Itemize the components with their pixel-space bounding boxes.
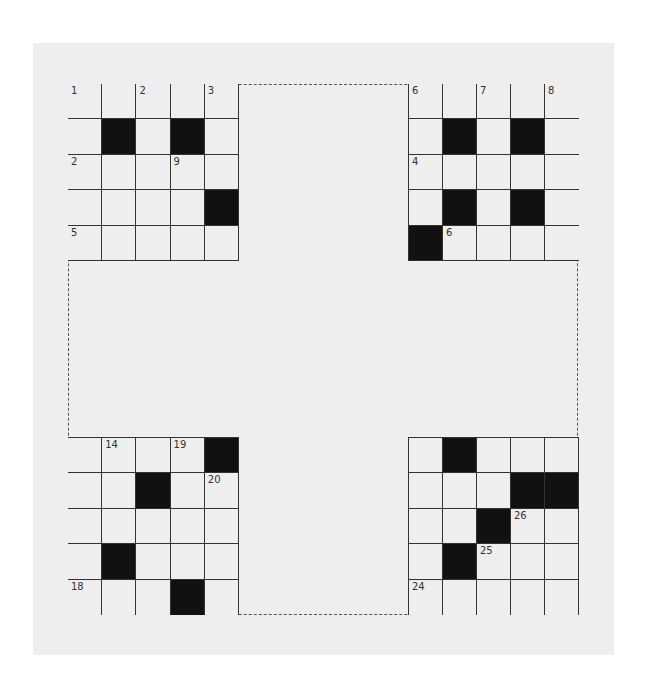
crossword-cell[interactable]: 26 — [511, 509, 545, 544]
crossword-cell[interactable] — [171, 473, 205, 508]
crossword-cell[interactable] — [511, 438, 545, 473]
black-square — [511, 119, 545, 154]
crossword-cell[interactable] — [102, 155, 136, 190]
crossword-cell[interactable] — [136, 544, 170, 579]
crossword-cell[interactable] — [205, 226, 239, 261]
crossword-cell[interactable] — [171, 84, 205, 119]
crossword-cell[interactable] — [545, 226, 579, 261]
clue-number: 26 — [514, 511, 527, 521]
crossword-cell[interactable] — [477, 473, 511, 508]
crossword-cell[interactable]: 6 — [409, 84, 443, 119]
crossword-cell[interactable] — [102, 580, 136, 615]
crossword-cell[interactable] — [511, 84, 545, 119]
crossword-cell[interactable]: 20 — [205, 473, 239, 508]
crossword-cell[interactable]: 2 — [68, 155, 102, 190]
crossword-cell[interactable] — [443, 509, 477, 544]
crossword-grid-bottom-left: 14192018 — [68, 437, 239, 615]
crossword-cell[interactable] — [443, 580, 477, 615]
crossword-cell[interactable] — [409, 119, 443, 154]
crossword-cell[interactable] — [409, 473, 443, 508]
crossword-cell[interactable]: 3 — [205, 84, 239, 119]
black-square — [443, 119, 477, 154]
crossword-cell[interactable]: 19 — [171, 438, 205, 473]
black-square — [511, 473, 545, 508]
crossword-cell[interactable] — [136, 226, 170, 261]
crossword-cell[interactable] — [68, 509, 102, 544]
crossword-cell[interactable] — [205, 155, 239, 190]
crossword-cell[interactable] — [68, 473, 102, 508]
crossword-grid-top-right: 67846 — [408, 84, 579, 261]
crossword-cell[interactable]: 5 — [68, 226, 102, 261]
crossword-cell[interactable] — [545, 509, 579, 544]
crossword-cell[interactable] — [511, 155, 545, 190]
crossword-cell[interactable] — [477, 226, 511, 261]
crossword-cell[interactable] — [171, 190, 205, 225]
crossword-cell[interactable] — [409, 438, 443, 473]
crossword-cell[interactable]: 1 — [68, 84, 102, 119]
crossword-cell[interactable] — [68, 190, 102, 225]
crossword-cell[interactable] — [409, 190, 443, 225]
crossword-cell[interactable] — [545, 544, 579, 579]
clue-number: 20 — [208, 475, 221, 485]
crossword-cell[interactable] — [477, 580, 511, 615]
crossword-cell[interactable] — [102, 509, 136, 544]
crossword-cell[interactable] — [545, 580, 579, 615]
crossword-cell[interactable]: 14 — [102, 438, 136, 473]
crossword-cell[interactable] — [68, 438, 102, 473]
crossword-grid-bottom-right: 262524 — [408, 437, 579, 615]
crossword-cell[interactable] — [171, 544, 205, 579]
clue-number: 6 — [412, 86, 418, 96]
crossword-cell[interactable] — [477, 119, 511, 154]
crossword-cell[interactable] — [68, 544, 102, 579]
black-square — [102, 119, 136, 154]
crossword-cell[interactable]: 7 — [477, 84, 511, 119]
crossword-cell[interactable]: 24 — [409, 580, 443, 615]
black-square — [443, 544, 477, 579]
crossword-cell[interactable] — [409, 509, 443, 544]
crossword-cell[interactable] — [443, 473, 477, 508]
crossword-cell[interactable] — [102, 226, 136, 261]
clue-number: 4 — [412, 157, 418, 167]
crossword-cell[interactable] — [102, 190, 136, 225]
crossword-cell[interactable]: 6 — [443, 226, 477, 261]
crossword-cell[interactable] — [545, 119, 579, 154]
crossword-cell[interactable]: 18 — [68, 580, 102, 615]
crossword-cell[interactable] — [443, 155, 477, 190]
crossword-cell[interactable] — [102, 84, 136, 119]
crossword-cell[interactable] — [136, 580, 170, 615]
crossword-cell[interactable] — [477, 190, 511, 225]
crossword-cell[interactable] — [511, 544, 545, 579]
clue-number: 1 — [71, 86, 77, 96]
crossword-cell[interactable] — [545, 190, 579, 225]
crossword-cell[interactable]: 8 — [545, 84, 579, 119]
crossword-cell[interactable] — [205, 509, 239, 544]
crossword-cell[interactable] — [68, 119, 102, 154]
crossword-cell[interactable]: 2 — [136, 84, 170, 119]
crossword-cell[interactable] — [205, 544, 239, 579]
crossword-cell[interactable] — [511, 580, 545, 615]
black-square — [102, 544, 136, 579]
crossword-cell[interactable] — [477, 155, 511, 190]
crossword-cell[interactable]: 4 — [409, 155, 443, 190]
crossword-cell[interactable] — [205, 580, 239, 615]
crossword-cell[interactable] — [409, 544, 443, 579]
crossword-cell[interactable] — [171, 509, 205, 544]
crossword-cell[interactable] — [511, 226, 545, 261]
clue-number: 5 — [71, 228, 77, 238]
black-square — [443, 438, 477, 473]
crossword-cell[interactable] — [171, 226, 205, 261]
crossword-cell[interactable] — [136, 509, 170, 544]
crossword-cell[interactable]: 25 — [477, 544, 511, 579]
crossword-cell[interactable] — [545, 155, 579, 190]
crossword-cell[interactable] — [102, 473, 136, 508]
crossword-cell[interactable]: 9 — [171, 155, 205, 190]
crossword-cell[interactable] — [136, 438, 170, 473]
crossword-cell[interactable] — [443, 84, 477, 119]
crossword-cell[interactable] — [545, 438, 579, 473]
crossword-cell[interactable] — [477, 438, 511, 473]
black-square — [205, 190, 239, 225]
crossword-cell[interactable] — [136, 119, 170, 154]
crossword-cell[interactable] — [136, 190, 170, 225]
crossword-cell[interactable] — [205, 119, 239, 154]
crossword-cell[interactable] — [136, 155, 170, 190]
